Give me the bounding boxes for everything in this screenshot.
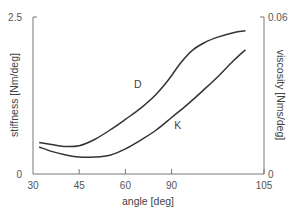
series-line-k — [39, 50, 245, 158]
series-line-d — [39, 31, 245, 147]
axes — [33, 17, 264, 174]
x-tick-label: 105 — [256, 180, 273, 191]
x-tick-label: 90 — [166, 180, 178, 191]
x-axis-label: angle [deg] — [122, 195, 174, 207]
y2-axis-label: viscosity [Nms/deg] — [275, 50, 287, 141]
y-tick-label-bottom: 0 — [16, 169, 22, 180]
y2-tick-label-top: 0.06 — [268, 12, 288, 23]
x-tick-label: 30 — [27, 180, 39, 191]
y-tick-label-top: 2.5 — [8, 12, 22, 23]
y2-tick-label-bottom: 0 — [268, 169, 274, 180]
y-axis-label: stiffness [Nm/deg] — [8, 53, 20, 137]
series-labels: D K — [134, 78, 181, 131]
curves — [39, 31, 245, 158]
x-tick-label: 60 — [120, 180, 132, 191]
x-axis-ticks — [79, 169, 264, 174]
x-tick-label: 45 — [74, 180, 86, 191]
series-label-k: K — [174, 119, 181, 131]
x-tick-labels: 30456090105 — [27, 180, 272, 191]
dual-axis-line-chart: 2.5 0 0.06 0 30456090105 angle [deg] sti… — [0, 0, 297, 219]
series-label-d: D — [134, 78, 142, 90]
